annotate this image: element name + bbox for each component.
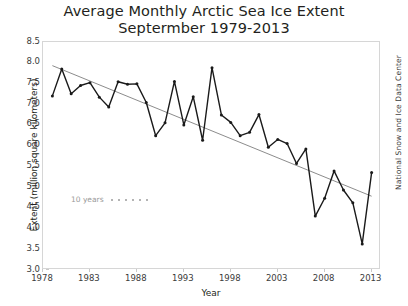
data-point-marker	[117, 80, 120, 83]
data-point-marker	[182, 123, 185, 126]
data-source-credit: National Snow and Ice Data Center	[394, 43, 403, 203]
data-point-marker	[154, 134, 157, 137]
data-point-marker	[370, 171, 373, 174]
x-tick-mark	[183, 269, 184, 272]
data-point-marker	[145, 101, 148, 104]
data-point-marker	[70, 92, 73, 95]
x-tick-label: 1988	[116, 274, 156, 283]
annotation-dot	[111, 199, 113, 201]
x-tick-label: 2008	[304, 274, 344, 283]
x-tick-mark	[277, 269, 278, 272]
data-point-marker	[173, 80, 176, 83]
x-tick-mark	[89, 269, 90, 272]
data-point-marker	[286, 142, 289, 145]
data-point-marker	[220, 113, 223, 116]
data-point-marker	[229, 121, 232, 124]
x-tick-mark	[324, 269, 325, 272]
plot-svg	[43, 42, 381, 270]
data-point-marker	[304, 147, 307, 150]
x-tick-label: 1978	[22, 274, 62, 283]
data-point-marker	[351, 201, 354, 204]
x-tick-mark	[371, 269, 372, 272]
x-tick-mark	[136, 269, 137, 272]
data-point-marker	[323, 197, 326, 200]
ten-years-label: 10 years	[71, 195, 104, 204]
annotation-dot	[125, 199, 127, 201]
data-point-marker	[192, 95, 195, 98]
annotation-dot	[139, 199, 141, 201]
x-tick-label: 2003	[257, 274, 297, 283]
data-point-marker	[248, 131, 251, 134]
sea-ice-extent-chart: Average Monthly Arctic Sea Ice Extent Se…	[0, 0, 408, 306]
annotation-dot	[118, 199, 120, 201]
data-series-line	[52, 68, 371, 244]
data-point-marker	[314, 215, 317, 218]
data-point-marker	[257, 113, 260, 116]
ten-years-dotted-line	[111, 199, 148, 201]
y-axis-title: Extent (million square kilometers)	[29, 60, 39, 250]
data-point-marker	[98, 96, 101, 99]
x-tick-label: 2013	[351, 274, 391, 283]
ten-years-annotation: 10 years	[71, 195, 148, 204]
x-tick-label: 1983	[69, 274, 109, 283]
annotation-dot	[132, 199, 134, 201]
annotation-dot	[146, 199, 148, 201]
data-point-marker	[361, 242, 364, 245]
chart-title-line2: Septermber 1979-2013	[0, 20, 408, 37]
data-point-marker	[164, 121, 167, 124]
trend-line	[52, 66, 371, 197]
x-tick-mark	[42, 269, 43, 272]
data-point-marker	[201, 139, 204, 142]
data-point-marker	[79, 84, 82, 87]
data-point-marker	[107, 106, 110, 109]
data-point-marker	[135, 82, 138, 85]
data-point-marker	[211, 66, 214, 69]
data-point-marker	[276, 138, 279, 141]
data-point-marker	[267, 146, 270, 149]
x-tick-label: 1993	[163, 274, 203, 283]
chart-title: Average Monthly Arctic Sea Ice Extent Se…	[0, 3, 408, 37]
data-point-marker	[88, 81, 91, 84]
plot-area: 10 years	[42, 41, 380, 269]
data-point-markers	[51, 66, 373, 245]
x-axis-title: Year	[42, 288, 380, 298]
data-point-marker	[333, 169, 336, 172]
data-point-marker	[295, 162, 298, 165]
x-tick-label: 1998	[210, 274, 250, 283]
data-point-marker	[60, 67, 63, 70]
data-point-marker	[239, 134, 242, 137]
chart-title-line1: Average Monthly Arctic Sea Ice Extent	[64, 3, 345, 19]
y-tick-label: 8.5	[12, 37, 40, 46]
data-point-marker	[51, 94, 54, 97]
data-point-marker	[126, 83, 129, 86]
data-point-marker	[342, 188, 345, 191]
x-tick-mark	[230, 269, 231, 272]
